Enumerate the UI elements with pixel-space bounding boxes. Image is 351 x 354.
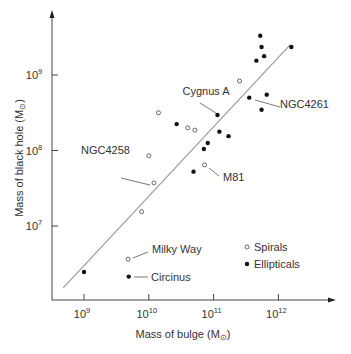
annotation-leader (209, 168, 219, 176)
circinus-label: Circinus (151, 271, 191, 283)
elliptical-point (226, 134, 230, 138)
annotations: Cygnus ANGC4261NGC4258M81Milky Way (81, 85, 329, 258)
elliptical-point (202, 147, 206, 151)
elliptical-point (247, 95, 251, 99)
plot-area: 109101010111012 107108109 Cygnus ANGC426… (0, 0, 351, 354)
elliptical-point (254, 58, 258, 62)
annotation-leader (255, 100, 280, 107)
elliptical-point (265, 92, 269, 96)
y-tick-label: 107 (26, 218, 42, 232)
elliptical-point (215, 113, 219, 117)
x-tick-label: 1011 (202, 306, 222, 320)
x-axis-label: Mass of bulge (M⊙) (135, 328, 230, 342)
annotation-leader (121, 178, 150, 185)
legend-filled-circle-icon (245, 262, 249, 266)
spiral-point (186, 126, 190, 130)
y-ticks: 107108109 (26, 67, 58, 232)
legend-ellipticals: Ellipticals (254, 258, 300, 270)
spiral-point (203, 163, 207, 167)
annotation-label: NGC4258 (81, 144, 130, 156)
annotation-label: NGC4261 (280, 98, 329, 110)
annotation-label: Milky Way (152, 243, 202, 255)
elliptical-point (289, 45, 293, 49)
x-ticks: 109101010111012 (74, 294, 287, 320)
elliptical-point (217, 129, 221, 133)
annotation-leader (133, 252, 148, 258)
spiral-point (238, 79, 242, 83)
legend: Spirals Ellipticals (245, 241, 301, 270)
spiral-point (140, 210, 144, 214)
scatter-chart: 109101010111012 107108109 Cygnus ANGC426… (0, 0, 351, 354)
y-axis-arrow-icon (50, 10, 55, 18)
annotation-label: Cygnus A (182, 85, 230, 97)
elliptical-point (82, 270, 86, 274)
x-tick-label: 1012 (266, 306, 287, 320)
x-tick-label: 109 (74, 306, 90, 320)
x-axis-arrow-icon (328, 298, 336, 303)
spiral-point (157, 111, 161, 115)
spiral-point (147, 154, 151, 158)
x-tick-label: 1010 (137, 306, 158, 320)
elliptical-point (262, 54, 266, 58)
elliptical-point (259, 45, 263, 49)
spiral-point (152, 181, 156, 185)
legend-open-circle-icon (245, 245, 249, 249)
annotation-label: M81 (223, 171, 244, 183)
y-tick-label: 109 (26, 67, 42, 81)
elliptical-point (191, 169, 195, 173)
circinus-annotation: Circinus (134, 271, 191, 283)
y-tick-label: 108 (26, 143, 42, 157)
elliptical-point (174, 122, 178, 126)
elliptical-point (206, 141, 210, 145)
y-axis-label: Mass of black hole (M⊙) (13, 99, 27, 217)
elliptical-point (258, 34, 262, 38)
spiral-point (193, 128, 197, 132)
spiral-point (126, 257, 130, 261)
annotation-leader (200, 103, 216, 113)
legend-spirals: Spirals (254, 241, 288, 253)
elliptical-point (259, 108, 263, 112)
elliptical-point (127, 274, 131, 278)
